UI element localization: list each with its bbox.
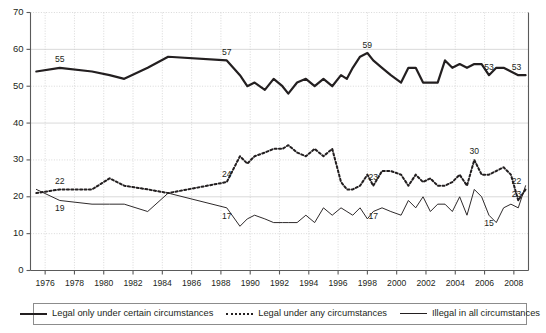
x-tick-label: 2004: [446, 278, 465, 288]
data-point-label: 57: [222, 47, 232, 57]
y-tick-label: 70: [13, 6, 24, 17]
data-point-label: 55: [55, 54, 65, 64]
x-tick-label: 1980: [94, 278, 113, 288]
y-tick-label: 10: [13, 227, 24, 238]
x-tick-label: 2002: [416, 278, 435, 288]
data-point-label: 23: [368, 172, 378, 182]
data-point-label: 53: [512, 62, 522, 72]
data-point-label: 19: [55, 203, 65, 213]
x-gridlines: [45, 13, 514, 271]
x-tick-label: 2000: [387, 278, 406, 288]
x-tick-label: 1988: [211, 278, 230, 288]
data-point-label: 53: [484, 62, 494, 72]
series-lines: [36, 53, 525, 226]
y-tick-label: 30: [13, 153, 24, 164]
data-point-label: 23: [512, 189, 522, 199]
legend-swatch-solid-thin-icon: [400, 313, 427, 314]
x-tick-label: 1996: [329, 278, 348, 288]
x-tick-label: 2008: [504, 278, 523, 288]
y-tick-label: 50: [13, 80, 24, 91]
y-axis-ticks: 010203040506070: [13, 6, 31, 275]
x-tick-label: 1984: [153, 278, 172, 288]
data-point-label: 59: [363, 40, 373, 50]
x-tick-label: 1994: [299, 278, 318, 288]
chart-plot-area: 010203040506070 197619781980198219841986…: [0, 0, 546, 292]
data-point-label: 17: [222, 211, 232, 221]
legend-label: Illegal in all circumstances: [432, 309, 540, 318]
x-tick-label: 1986: [182, 278, 201, 288]
x-tick-label: 1976: [36, 278, 55, 288]
data-point-label: 17: [368, 211, 378, 221]
x-tick-label: 2006: [475, 278, 494, 288]
y-tick-label: 20: [13, 190, 24, 201]
x-axis-ticks: 1976197819801982198419861988199019921994…: [36, 271, 524, 288]
data-point-label: 30: [470, 146, 480, 156]
x-tick-label: 1978: [65, 278, 84, 288]
data-point-label: 15: [484, 218, 494, 228]
x-tick-label: 1998: [358, 278, 377, 288]
chart-legend: Legal only under certain circumstances L…: [33, 303, 527, 325]
legend-swatch-dotted-icon: [226, 313, 253, 315]
y-tick-label: 40: [13, 117, 24, 128]
legend-label: Legal only under certain circumstances: [52, 309, 213, 318]
data-point-label: 22: [55, 176, 65, 186]
data-point-label: 24: [222, 169, 232, 179]
x-tick-label: 1982: [123, 278, 142, 288]
data-point-label: 22: [512, 176, 522, 186]
y-tick-label: 0: [18, 264, 23, 275]
chart-page: 010203040506070 197619781980198219841986…: [0, 0, 546, 333]
x-tick-label: 1992: [270, 278, 289, 288]
series-line: [36, 186, 525, 227]
y-tick-label: 60: [13, 43, 24, 54]
legend-item-illegal-all[interactable]: Illegal in all circumstances: [400, 309, 540, 318]
legend-item-legal-certain[interactable]: Legal only under certain circumstances: [20, 309, 213, 318]
legend-item-legal-any[interactable]: Legal under any circumstances: [226, 309, 387, 318]
line-chart: 010203040506070 197619781980198219841986…: [0, 0, 546, 292]
x-tick-label: 1990: [241, 278, 260, 288]
legend-swatch-solid-thick-icon: [20, 313, 47, 315]
series-line: [36, 145, 525, 200]
legend-label: Legal under any circumstances: [258, 309, 387, 318]
series-line: [36, 53, 525, 94]
